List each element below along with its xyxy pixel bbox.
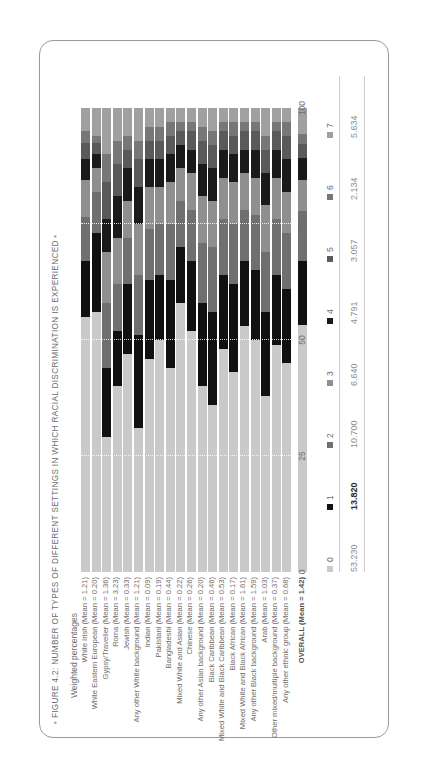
bar-segment-0 — [112, 386, 121, 572]
bar-segment-4 — [261, 173, 270, 205]
bar-segment-6 — [176, 122, 185, 131]
bar-segment-6 — [282, 122, 291, 136]
caption-bullet-right: ▪ — [51, 234, 60, 237]
stacked-bar — [112, 108, 121, 572]
bar-segment-5 — [186, 131, 195, 150]
bar-segment-6 — [112, 141, 121, 164]
bar-segment-2 — [197, 243, 206, 303]
bar-segment-0 — [271, 345, 280, 572]
bar-segment-5 — [239, 131, 248, 150]
bar-row-label: Any other Asian background (Mean = 0.20) — [196, 577, 205, 722]
bar-segment-1 — [218, 275, 227, 349]
bar-segment-6 — [144, 127, 153, 141]
legend-value-7: 5.634 — [349, 115, 359, 138]
bar-segment-4 — [271, 150, 280, 178]
legend-cell-0: 0 — [325, 510, 335, 572]
legend-value-3: 6.640 — [349, 363, 359, 386]
bar-segment-7 — [112, 108, 121, 140]
bar-segment-5 — [218, 131, 227, 150]
bar-segment-1 — [144, 280, 153, 359]
bar-segment-5 — [144, 141, 153, 160]
bar-segment-7 — [261, 108, 270, 136]
bar-segment-0 — [165, 368, 174, 572]
bar-segment-6 — [133, 141, 142, 160]
legend-item-3[interactable]: 3 — [325, 324, 335, 386]
stacked-bar — [271, 108, 280, 572]
bar-segment-7 — [229, 108, 238, 122]
legend-item-4[interactable]: 4 — [325, 262, 335, 324]
bar-segment-3 — [144, 187, 153, 229]
bar-segment-6 — [197, 127, 206, 141]
bar-segment-0 — [229, 372, 238, 572]
bar-segment-7 — [176, 108, 185, 122]
bar-segment-1 — [250, 270, 259, 340]
legend-label-3: 3 — [325, 371, 335, 376]
bar-segment-3 — [112, 238, 121, 284]
bar-segment-4 — [165, 154, 174, 182]
bar-segment-2 — [250, 215, 259, 271]
bar-segment-6 — [91, 136, 100, 143]
bar-segment-1 — [133, 335, 142, 428]
bar-segment-0 — [261, 396, 270, 572]
bar-segment-5 — [282, 136, 291, 159]
bar-segment-7 — [282, 108, 291, 122]
legend-item-0[interactable]: 0 — [325, 510, 335, 572]
bar-row-label: Black African (Mean = 0.17) — [227, 577, 236, 671]
legend-swatch-icon-0 — [327, 566, 333, 572]
caption-bullet-left: ▪ — [51, 721, 60, 724]
x-tick-50: 50 — [297, 335, 307, 344]
bar-segment-6 — [271, 122, 280, 131]
bar-segment-0 — [102, 437, 111, 572]
legend-value-2: 10.700 — [349, 420, 359, 448]
bar-segment-0 — [197, 386, 206, 572]
bar-segment-6 — [155, 127, 164, 141]
legend-value-cell-0: 53.230 — [343, 510, 361, 572]
legend-item-2[interactable]: 2 — [325, 386, 335, 448]
bar-segment-2 — [176, 201, 185, 247]
bar-segment-7 — [133, 108, 142, 140]
bar-segment-0 — [186, 331, 195, 572]
legend-cell-1: 1 — [325, 448, 335, 510]
bar-segment-1 — [261, 312, 270, 396]
bar-segment-1 — [229, 284, 238, 372]
bar-segment-6 — [239, 122, 248, 131]
stacked-bar — [218, 108, 227, 572]
legend-item-6[interactable]: 6 — [325, 138, 335, 200]
bar-segment-5 — [165, 136, 174, 155]
bar-segment-5 — [176, 131, 185, 145]
legend-label-5: 5 — [325, 247, 335, 252]
bar-row: Arab (Mean = 1.03) — [261, 108, 270, 572]
bar-row-label: Any other Black background (Mean = 1.59) — [249, 577, 258, 722]
bar-row-label: OVERALL (Mean = 1.42) — [296, 577, 305, 663]
bar-row: Jewish (Mean = 0.33) — [123, 108, 132, 572]
bar-segment-1 — [112, 331, 121, 387]
bar-segment-7 — [218, 108, 227, 122]
bar-segment-2 — [261, 252, 270, 312]
bar-segment-5 — [112, 164, 121, 196]
bar-row: Pakistani (Mean = 0.19) — [155, 108, 164, 572]
legend-item-1[interactable]: 1 — [325, 448, 335, 510]
bar-segment-6 — [250, 122, 259, 131]
x-tick-25: 25 — [297, 451, 307, 460]
bar-row-label: Jewish (Mean = 0.33) — [121, 577, 130, 650]
bar-segment-4 — [102, 219, 111, 251]
legend-item-5[interactable]: 5 — [325, 200, 335, 262]
bar-row-label: Mixed White and Black Caribbean (Mean = … — [217, 577, 226, 741]
bar-segment-4 — [155, 159, 164, 187]
bar-segment-3 — [229, 182, 238, 224]
bar-segment-4 — [91, 154, 100, 168]
legend-value-6: 2.134 — [349, 177, 359, 200]
stacked-bar — [197, 108, 206, 572]
bar-segment-7 — [208, 108, 217, 131]
legend-keys: 01234567 — [325, 76, 335, 572]
x-axis: 0255075100 — [297, 108, 313, 572]
bar-row: Black African (Mean = 0.17) — [229, 108, 238, 572]
figure-page: ▪ FIGURE 4.2: NUMBER OF TYPES OF DIFFERE… — [0, 0, 429, 776]
x-tick-100: 100 — [297, 101, 307, 115]
legend-cell-5: 5 — [325, 200, 335, 262]
bar-segment-1 — [197, 303, 206, 387]
legend-item-7[interactable]: 7 — [325, 76, 335, 138]
bar-row: Mixed White and Asian (Mean = 0.22) — [176, 108, 185, 572]
bar-segment-2 — [282, 233, 291, 289]
bar-segment-1 — [123, 284, 132, 354]
